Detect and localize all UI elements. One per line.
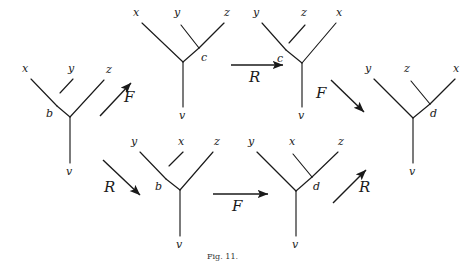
tree-right-leaf-z: z: [404, 63, 410, 74]
tree-left-graphic: [31, 79, 104, 163]
tree-bottom-middle-leaf-x: x: [289, 136, 295, 147]
tree-bottom-middle-graphic: [257, 152, 338, 236]
tree-top-middle-internal-c: c: [277, 53, 283, 64]
tree-bottom-middle-internal-d: d: [313, 181, 320, 192]
tree-bottom-left-internal-b: b: [155, 181, 162, 192]
tree-left-internal-b: b: [46, 108, 53, 119]
tree-top-middle-leaf-y: y: [253, 7, 259, 18]
tree-right-internal-d: d: [430, 108, 437, 119]
figure-caption: Fig. 11.: [207, 252, 238, 261]
arrow-lower-left-label: R: [104, 180, 115, 195]
tree-bottom-left-graphic: [140, 152, 213, 236]
tree-top-left-internal-c: c: [201, 52, 207, 63]
tree-left-leaf-z: z: [106, 64, 112, 75]
tree-right-leaf-x: x: [453, 63, 459, 74]
tree-right-leaf-y: y: [365, 63, 371, 74]
arrow-bottom-label: F: [232, 199, 242, 214]
tree-left-leaf-x: x: [22, 63, 28, 74]
figure-container: x y z b v x y z c v y z x c v y z x d v …: [0, 0, 475, 271]
tree-right-root-v: v: [409, 166, 415, 177]
tree-right-graphic: [374, 79, 455, 163]
tree-bottom-left-leaf-x: x: [178, 136, 184, 147]
arrow-upper-right-shaft: [331, 80, 364, 112]
diagram-canvas: [0, 0, 475, 271]
tree-top-middle-leaf-x: x: [336, 7, 342, 18]
tree-bottom-left-leaf-z: z: [214, 136, 220, 147]
tree-bottom-middle-root-v: v: [292, 239, 298, 250]
tree-bottom-left-leaf-y: y: [131, 136, 137, 147]
tree-bottom-left-root-v: v: [176, 239, 182, 250]
arrow-lower-right-label: R: [359, 180, 370, 195]
tree-left-root-v: v: [66, 166, 72, 177]
tree-bottom-middle-leaf-y: y: [248, 136, 254, 147]
tree-top-left-leaf-z: z: [224, 7, 230, 18]
tree-top-middle-leaf-z: z: [301, 7, 307, 18]
tree-top-left-graphic: [142, 23, 224, 107]
tree-left-leaf-y: y: [68, 63, 74, 74]
tree-top-left-leaf-y: y: [174, 7, 180, 18]
arrow-top-label: R: [249, 70, 260, 85]
tree-top-left-root-v: v: [179, 110, 185, 121]
tree-top-left-leaf-x: x: [133, 7, 139, 18]
tree-bottom-middle-leaf-z: z: [338, 136, 344, 147]
arrow-upper-left-label: F: [124, 90, 134, 105]
tree-top-middle-root-v: v: [298, 110, 304, 121]
arrow-upper-right-label: F: [316, 86, 326, 101]
